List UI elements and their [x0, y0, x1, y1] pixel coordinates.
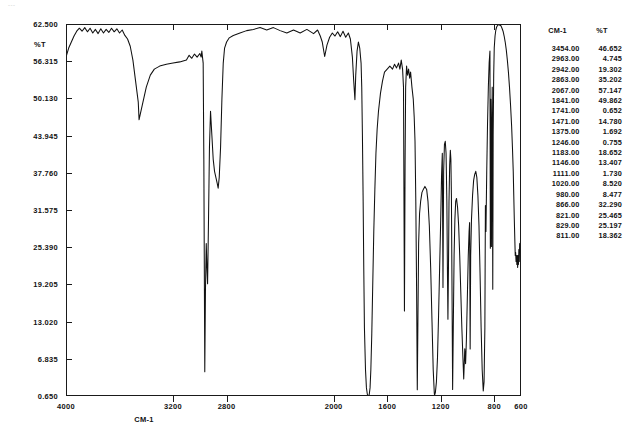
- peak-table-row: 980.008.477: [534, 190, 628, 200]
- peak-transmittance: 0.755: [581, 138, 628, 148]
- peak-table-row: 2067.0057.147: [534, 86, 628, 96]
- peak-transmittance: 0.652: [581, 106, 628, 116]
- peak-wavenumber: 3454.00: [534, 44, 581, 54]
- x-tick-mark-top: [227, 24, 228, 30]
- peak-wavenumber: 1246.00: [534, 138, 581, 148]
- y-axis-labels: 62.50056.31550.13043.94537.76031.57525.3…: [0, 24, 58, 396]
- peak-transmittance: 49.862: [581, 96, 628, 106]
- peak-wavenumber: 980.00: [534, 190, 581, 200]
- scan-artifact: ---: [8, 2, 16, 8]
- y-tick-label: 19.205: [33, 280, 58, 289]
- peak-transmittance: 13.407: [581, 158, 628, 168]
- x-tick-mark: [441, 396, 442, 402]
- peak-wavenumber: 2942.00: [534, 65, 581, 75]
- x-tick-label: 800: [488, 402, 501, 411]
- peak-wavenumber: 1183.00: [534, 148, 581, 158]
- y-tick-label: 13.020: [33, 317, 58, 326]
- peak-table-row: 829.0025.197: [534, 221, 628, 231]
- peak-transmittance: 25.197: [581, 221, 628, 231]
- peak-table-row: 1111.001.730: [534, 169, 628, 179]
- peak-table-body: 3454.0046.6522963.004.7452942.0019.30228…: [534, 44, 628, 242]
- plot-frame: [66, 24, 521, 396]
- x-tick-label: 2800: [218, 402, 236, 411]
- x-tick-label: 4000: [57, 402, 75, 411]
- x-tick-mark-top: [494, 24, 495, 30]
- ir-spectrum-page: --- 62.50056.31550.13043.94537.76031.575…: [0, 0, 628, 434]
- peak-wavenumber: 1741.00: [534, 106, 581, 116]
- peak-table: CM-1 %T 3454.0046.6522963.004.7452942.00…: [534, 26, 628, 242]
- peak-transmittance: 57.147: [581, 86, 628, 96]
- peak-table-row: 1471.0014.780: [534, 117, 628, 127]
- x-tick-mark: [227, 396, 228, 402]
- x-tick-label: 2000: [325, 402, 343, 411]
- y-tick-label: 50.130: [33, 94, 58, 103]
- y-tick-label: 37.760: [33, 168, 58, 177]
- x-tick-label: 1200: [432, 402, 450, 411]
- y-tick-label: 62.500: [33, 20, 58, 29]
- peak-transmittance: 46.652: [581, 44, 628, 54]
- x-tick-mark-top: [441, 24, 442, 30]
- peak-transmittance: 18.652: [581, 148, 628, 158]
- y-tick-mark: [66, 173, 72, 174]
- x-tick-label: 3200: [164, 402, 182, 411]
- peak-table-row: 3454.0046.652: [534, 44, 628, 54]
- peak-transmittance: 19.302: [581, 65, 628, 75]
- peak-table-row: 821.0025.465: [534, 211, 628, 221]
- x-tick-label: 600: [514, 402, 527, 411]
- column-header-wavenumber: CM-1: [534, 26, 581, 35]
- peak-wavenumber: 1471.00: [534, 117, 581, 127]
- x-tick-mark: [173, 396, 174, 402]
- y-tick-mark: [66, 210, 72, 211]
- x-axis-title: CM-1: [0, 415, 628, 424]
- peak-table-row: 1020.008.520: [534, 179, 628, 189]
- x-tick-mark-top: [387, 24, 388, 30]
- peak-table-row: 2942.0019.302: [534, 65, 628, 75]
- peak-transmittance: 8.520: [581, 179, 628, 189]
- peak-wavenumber: 1020.00: [534, 179, 581, 189]
- x-tick-mark-top: [334, 24, 335, 30]
- y-tick-label: 56.315: [33, 57, 58, 66]
- x-tick-mark-top: [173, 24, 174, 30]
- peak-transmittance: 35.202: [581, 75, 628, 85]
- peak-wavenumber: 1375.00: [534, 127, 581, 137]
- peak-transmittance: 1.730: [581, 169, 628, 179]
- peak-wavenumber: 1841.00: [534, 96, 581, 106]
- peak-transmittance: 1.692: [581, 127, 628, 137]
- peak-wavenumber: 1111.00: [534, 169, 581, 179]
- peak-wavenumber: 2067.00: [534, 86, 581, 96]
- peak-table-row: 1841.0049.862: [534, 96, 628, 106]
- peak-transmittance: 4.745: [581, 54, 628, 64]
- peak-table-row: 2863.0035.202: [534, 75, 628, 85]
- peak-table-row: 811.0018.362: [534, 231, 628, 241]
- spectrum-plot: [66, 24, 521, 396]
- x-tick-mark: [387, 396, 388, 402]
- peak-wavenumber: 821.00: [534, 211, 581, 221]
- y-tick-mark: [66, 247, 72, 248]
- y-tick-label: 6.835: [38, 354, 58, 363]
- peak-wavenumber: 1146.00: [534, 158, 581, 168]
- peak-wavenumber: 829.00: [534, 221, 581, 231]
- x-tick-mark: [494, 396, 495, 402]
- peak-wavenumber: 2863.00: [534, 75, 581, 85]
- y-tick-label: 25.390: [33, 243, 58, 252]
- peak-table-row: 1246.000.755: [534, 138, 628, 148]
- y-tick-mark: [66, 284, 72, 285]
- y-tick-mark: [66, 136, 72, 137]
- peak-table-row: 1146.0013.407: [534, 158, 628, 168]
- peak-table-row: 1375.001.692: [534, 127, 628, 137]
- peak-transmittance: 25.465: [581, 211, 628, 221]
- column-header-transmittance: %T: [581, 26, 623, 35]
- y-axis-title: %T: [34, 40, 46, 49]
- y-tick-mark: [66, 322, 72, 323]
- x-tick-mark: [334, 396, 335, 402]
- peak-transmittance: 8.477: [581, 190, 628, 200]
- y-tick-label: 31.575: [33, 206, 58, 215]
- peak-table-row: 1183.0018.652: [534, 148, 628, 158]
- x-tick-label: 1600: [378, 402, 396, 411]
- peak-transmittance: 14.780: [581, 117, 628, 127]
- peak-table-row: 1741.000.652: [534, 106, 628, 116]
- peak-table-header: CM-1 %T: [534, 26, 628, 35]
- y-tick-mark: [66, 61, 72, 62]
- peak-wavenumber: 2963.00: [534, 54, 581, 64]
- y-tick-label: 43.945: [33, 131, 58, 140]
